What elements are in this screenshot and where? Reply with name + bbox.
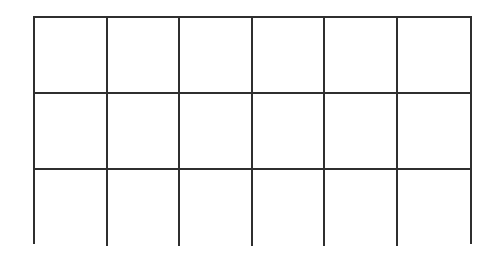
grid-cell [35,18,108,94]
grid-cell [180,94,253,170]
grid-cell [35,170,108,246]
grid-cell [180,170,253,246]
empty-grid-table [33,16,472,244]
grid-cell [35,94,108,170]
grid-cell [180,18,253,94]
grid-cell [398,170,471,246]
grid-cell [253,94,326,170]
grid-cell [253,170,326,246]
grid-cell [325,94,398,170]
grid-cell [108,170,181,246]
grid-cell [325,18,398,94]
grid-cell [325,170,398,246]
grid-cell [398,18,471,94]
grid-cell [108,94,181,170]
grid-cell [253,18,326,94]
grid-cell [398,94,471,170]
grid-cell [108,18,181,94]
